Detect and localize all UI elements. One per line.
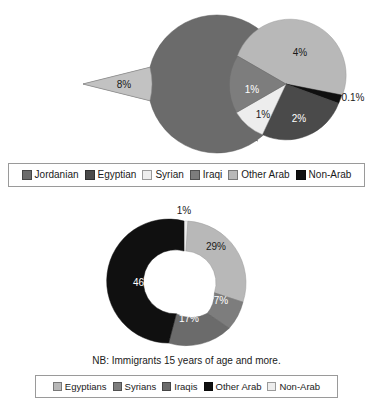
legend-label-jordanian: Jordanian — [35, 170, 79, 180]
donut-group: 1% 29% 7% 17% 46% — [107, 205, 246, 346]
exploded-label-egyptian: 2% — [292, 113, 307, 124]
legend-item-syrians[interactable]: Syrians — [113, 382, 157, 392]
legend-item-non-arab[interactable]: Non-Arab — [296, 170, 352, 180]
legend-label-other-arab-donut: Other Arab — [216, 382, 262, 392]
legend-item-egyptian[interactable]: Egyptian — [85, 170, 137, 180]
legend-label-egyptian: Egyptian — [98, 170, 137, 180]
exploded-label-other-arab: 4% — [293, 47, 308, 58]
exploded-pie-group: 4% 0.1% 2% 1% 1% — [229, 19, 364, 140]
legend-swatch-non-arab-donut — [267, 382, 276, 391]
legend-label-iraqis: Iraqis — [174, 382, 197, 392]
pie-label-92: 92% — [37, 79, 57, 90]
legend-swatch-syrians — [113, 382, 122, 391]
legend-label-non-arab-donut: Non-Arab — [279, 382, 320, 392]
pie-chart-svg: 92% 8% 4% 0.1% 2% 1% 1% — [0, 0, 373, 160]
donut-label-other-arab: 46% — [133, 277, 153, 288]
donut-label-syrians: 7% — [214, 295, 229, 306]
legend-item-iraqis[interactable]: Iraqis — [162, 382, 197, 392]
legend-item-syrian[interactable]: Syrian — [142, 170, 183, 180]
legend-item-jordanian[interactable]: Jordanian — [22, 170, 79, 180]
figure-root: 92% 8% 4% 0.1% 2% 1% 1% — [0, 0, 373, 409]
legend-swatch-egyptians — [53, 382, 62, 391]
legend-swatch-jordanian — [22, 170, 32, 180]
donut-slice-egyptians[interactable] — [186, 221, 246, 302]
pie-chart-legend: Jordanian Egyptian Syrian Iraqi Other Ar… — [8, 163, 365, 187]
legend-swatch-egyptian — [85, 170, 95, 180]
legend-swatch-syrian — [142, 170, 152, 180]
donut-chart-svg: 1% 29% 7% 17% 46% — [0, 200, 373, 355]
legend-label-egyptians: Egyptians — [65, 382, 107, 392]
donut-chart-legend: Egyptians Syrians Iraqis Other Arab Non-… — [35, 375, 338, 398]
legend-swatch-iraqis — [162, 382, 171, 391]
donut-label-egyptians: 29% — [206, 241, 226, 252]
donut-label-non-arab: 1% — [177, 205, 192, 216]
pie-label-8: 8% — [117, 79, 132, 90]
donut-label-iraqis: 17% — [179, 313, 199, 324]
legend-swatch-other-arab-donut — [204, 382, 213, 391]
legend-label-other-arab: Other Arab — [241, 170, 289, 180]
legend-item-other-arab-donut[interactable]: Other Arab — [204, 382, 262, 392]
legend-label-syrian: Syrian — [155, 170, 183, 180]
donut-chart-block: 1% 29% 7% 17% 46% — [0, 200, 373, 355]
legend-swatch-non-arab — [296, 170, 306, 180]
exploded-label-iraqi: 1% — [245, 84, 260, 95]
legend-swatch-other-arab — [228, 170, 238, 180]
legend-item-iraqi[interactable]: Iraqi — [190, 170, 222, 180]
exploded-label-syrian: 1% — [256, 109, 271, 120]
chart-caption: NB: Immigrants 15 years of age and more. — [0, 355, 373, 366]
legend-swatch-iraqi — [190, 170, 200, 180]
legend-item-egyptians[interactable]: Egyptians — [53, 382, 107, 392]
legend-label-non-arab: Non-Arab — [309, 170, 352, 180]
legend-label-iraqi: Iraqi — [203, 170, 222, 180]
exploded-label-non-arab: 0.1% — [342, 92, 365, 103]
pie-chart-block: 92% 8% 4% 0.1% 2% 1% 1% — [0, 0, 373, 160]
legend-item-non-arab-donut[interactable]: Non-Arab — [267, 382, 320, 392]
legend-label-syrians: Syrians — [125, 382, 157, 392]
legend-item-other-arab[interactable]: Other Arab — [228, 170, 289, 180]
